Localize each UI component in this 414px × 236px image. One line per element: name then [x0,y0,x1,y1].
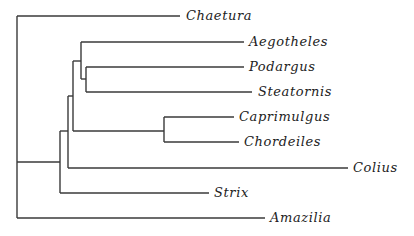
taxon-label-strix: Strix [214,185,249,200]
taxon-label-aegotheles: Aegotheles [248,34,328,49]
taxon-label-amazilia: Amazilia [269,210,331,225]
taxon-label-chordeiles: Chordeiles [244,134,321,149]
taxon-label-chaetura: Chaetura [186,8,252,23]
taxon-label-colius: Colius [353,160,398,175]
taxon-label-caprimulgus: Caprimulgus [239,109,330,124]
phylogenetic-tree: Chaetura Aegotheles Podargus Steatornis … [0,0,414,236]
taxon-label-steatornis: Steatornis [258,84,332,99]
taxon-label-podargus: Podargus [248,59,316,74]
